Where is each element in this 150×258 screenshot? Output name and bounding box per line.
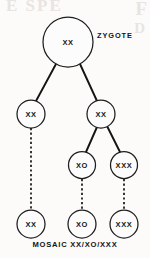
lineage-edge-right-to-xo <box>86 127 97 152</box>
lineage-edge-zygote-to-left <box>36 64 56 101</box>
cell-node-gen3-xo: XO <box>68 210 96 238</box>
mosaic-lineage-figure: E SPE F D XXXXXXXOXXXXXXOXXX ZYGOTE MOSA… <box>0 0 150 258</box>
zygote-label: ZYGOTE <box>97 31 133 40</box>
cell-node-zygote: XX <box>43 17 93 67</box>
cell-node-gen2-xxx: XXX <box>111 152 138 179</box>
karyotype-label-gen3-xo: XO <box>76 220 88 229</box>
karyotype-label-gen1-right: XX <box>95 110 106 119</box>
node-group: XXXXXXXOXXXXXXOXXX <box>17 17 138 238</box>
lineage-edge-right-to-xxx <box>107 126 120 152</box>
mosaic-caption: MOSAIC XX/XO/XXX <box>0 240 150 249</box>
karyotype-label-gen2-xo: XO <box>76 161 88 170</box>
lineage-edge-zygote-to-right <box>80 64 97 101</box>
karyotype-label-gen2-xxx: XXX <box>116 161 133 170</box>
karyotype-label-gen3-xxx: XXX <box>116 220 133 229</box>
karyotype-label-gen3-xx: XX <box>25 220 36 229</box>
cell-node-gen1-right: XX <box>87 100 115 128</box>
karyotype-label-zygote: XX <box>62 38 73 47</box>
cell-node-gen2-xo: XO <box>69 152 96 179</box>
karyotype-label-gen1-left: XX <box>25 110 36 119</box>
edge-group <box>31 64 124 210</box>
cell-node-gen1-left: XX <box>17 100 45 128</box>
cell-node-gen3-xx: XX <box>17 210 45 238</box>
cell-node-gen3-xxx: XXX <box>110 210 138 238</box>
